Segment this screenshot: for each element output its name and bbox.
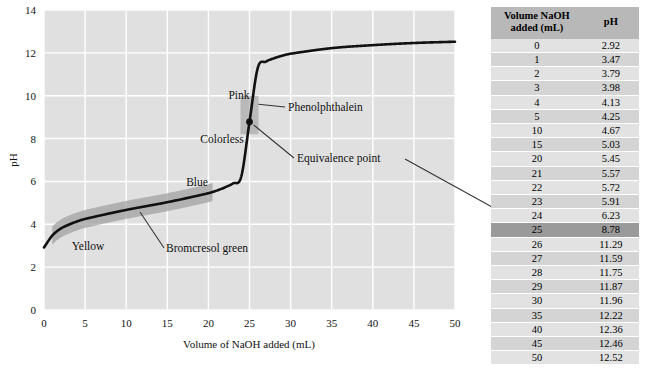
y-tick-label: 10 <box>25 90 37 102</box>
cell-volume: 1 <box>491 52 583 66</box>
table-row: 2611.29 <box>491 237 639 251</box>
cell-ph: 12.36 <box>583 322 639 336</box>
table-row: 235.91 <box>491 194 639 208</box>
table-row: 4012.36 <box>491 322 639 336</box>
table-row: 13.47 <box>491 52 639 66</box>
x-axis-label: Volume of NaOH added (mL) <box>183 338 315 351</box>
cell-volume: 22 <box>491 180 583 194</box>
cell-volume: 45 <box>491 337 583 351</box>
cell-ph: 11.96 <box>583 294 639 308</box>
table-row: 3011.96 <box>491 294 639 308</box>
x-tick-label: 45 <box>408 317 420 329</box>
x-tick-label: 20 <box>203 317 215 329</box>
cell-ph: 2.92 <box>583 39 639 53</box>
cell-ph: 4.67 <box>583 123 639 137</box>
header-volume-line2: added (mL) <box>510 22 563 33</box>
header-volume-line1: Volume NaOH <box>504 10 570 21</box>
cell-volume: 24 <box>491 209 583 223</box>
cell-ph: 5.72 <box>583 180 639 194</box>
cell-volume: 10 <box>491 123 583 137</box>
cell-volume: 2 <box>491 67 583 81</box>
cell-ph: 6.23 <box>583 209 639 223</box>
x-tick-label: 5 <box>82 317 88 329</box>
cell-volume: 40 <box>491 322 583 336</box>
cell-ph: 12.22 <box>583 308 639 322</box>
header-ph: pH <box>583 7 639 39</box>
annotation-pink: Pink <box>228 89 249 101</box>
table-row: 225.72 <box>491 180 639 194</box>
cell-ph: 3.79 <box>583 67 639 81</box>
y-tick-label: 6 <box>31 175 37 187</box>
table-row: 02.92 <box>491 39 639 53</box>
cell-volume: 5 <box>491 109 583 123</box>
cell-volume: 28 <box>491 266 583 280</box>
annotation-equivalence-point: Equivalence point <box>297 152 381 165</box>
cell-volume: 21 <box>491 166 583 180</box>
table-row: 215.57 <box>491 166 639 180</box>
cell-volume: 27 <box>491 251 583 265</box>
cell-ph: 8.78 <box>583 223 639 237</box>
y-tick-label: 8 <box>31 133 37 145</box>
y-tick-label: 4 <box>31 218 37 230</box>
cell-volume: 50 <box>491 351 583 365</box>
y-tick-label: 14 <box>25 4 37 16</box>
x-tick-label: 15 <box>162 317 174 329</box>
table-header-row: Volume NaOH added (mL) pH <box>491 7 639 39</box>
titration-data-table: Volume NaOH added (mL) pH 02.9213.4723.7… <box>491 7 639 365</box>
x-tick-label: 35 <box>326 317 338 329</box>
cell-ph: 12.46 <box>583 337 639 351</box>
cell-volume: 0 <box>491 39 583 53</box>
x-tick-label: 30 <box>285 317 297 329</box>
cell-volume: 29 <box>491 280 583 294</box>
x-tick-label: 10 <box>121 317 133 329</box>
x-tick-label: 0 <box>41 317 47 329</box>
x-tick-label: 50 <box>450 317 462 329</box>
cell-ph: 5.03 <box>583 138 639 152</box>
table-row: 2811.75 <box>491 266 639 280</box>
annotation-colorless: Colorless <box>200 133 244 145</box>
table-row: 5012.52 <box>491 351 639 365</box>
table-body: 02.9213.4723.7933.9844.1354.25104.67155.… <box>491 39 639 365</box>
y-axis-label: pH <box>7 153 19 167</box>
table-row: 3512.22 <box>491 308 639 322</box>
cell-volume: 20 <box>491 152 583 166</box>
cell-ph: 11.59 <box>583 251 639 265</box>
annotation-bromcresol-green: Bromcresol green <box>166 242 248 255</box>
cell-volume: 15 <box>491 138 583 152</box>
cell-volume: 25 <box>491 223 583 237</box>
x-tick-label: 40 <box>367 317 379 329</box>
table-row: 54.25 <box>491 109 639 123</box>
table-row: 33.98 <box>491 81 639 95</box>
annotation-yellow: Yellow <box>72 240 105 252</box>
table-row: 23.79 <box>491 67 639 81</box>
table-head: Volume NaOH added (mL) pH <box>491 7 639 39</box>
table-row: 246.23 <box>491 209 639 223</box>
cell-volume: 26 <box>491 237 583 251</box>
cell-ph: 4.13 <box>583 95 639 109</box>
cell-volume: 30 <box>491 294 583 308</box>
cell-ph: 3.47 <box>583 52 639 66</box>
equivalence-point-marker <box>246 118 253 125</box>
cell-ph: 12.52 <box>583 351 639 365</box>
cell-ph: 4.25 <box>583 109 639 123</box>
header-volume: Volume NaOH added (mL) <box>491 7 583 39</box>
table-row: 2711.59 <box>491 251 639 265</box>
cell-ph: 3.98 <box>583 81 639 95</box>
cell-ph: 5.91 <box>583 194 639 208</box>
table-row: 205.45 <box>491 152 639 166</box>
table-row: 44.13 <box>491 95 639 109</box>
cell-volume: 23 <box>491 194 583 208</box>
x-tick-label: 25 <box>244 317 256 329</box>
y-tick-label: 12 <box>25 47 36 59</box>
titration-chart: 02468101214 05101520253035404550 pH Volu… <box>0 0 470 371</box>
y-tick-label: 0 <box>31 304 37 316</box>
table-row: 2911.87 <box>491 280 639 294</box>
cell-ph: 11.87 <box>583 280 639 294</box>
annotation-blue: Blue <box>186 176 208 188</box>
table-row: 155.03 <box>491 138 639 152</box>
cell-ph: 11.75 <box>583 266 639 280</box>
cell-volume: 4 <box>491 95 583 109</box>
cell-volume: 35 <box>491 308 583 322</box>
table-row: 258.78 <box>491 223 639 237</box>
cell-volume: 3 <box>491 81 583 95</box>
